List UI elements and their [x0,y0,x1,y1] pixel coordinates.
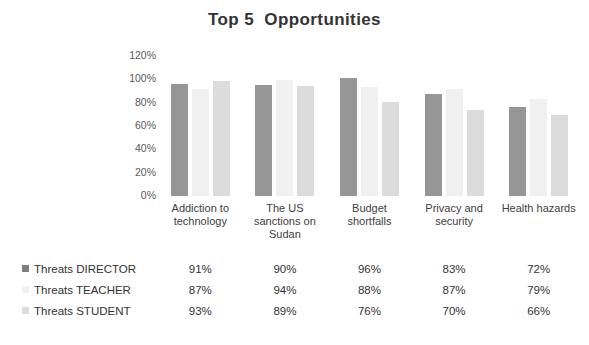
chart-title: Top 5 Opportunities [0,10,589,30]
table-cell: 79% [496,284,581,296]
legend-entry[interactable]: Threats STUDENT [0,305,158,317]
legend-label: Threats TEACHER [34,284,131,296]
category-label: The US sanctions on Sudan [243,202,328,241]
table-row: Threats DIRECTOR91%90%96%83%72% [0,258,589,279]
data-table-legend: Threats DIRECTOR91%90%96%83%72%Threats T… [0,258,589,321]
bar-group [496,48,581,196]
table-cell: 72% [496,263,581,275]
bar [297,86,314,196]
y-axis: 120% 100% 80% 60% 40% 20% 0% [104,48,156,200]
category-label: Addiction to technology [158,202,243,241]
table-cell: 94% [243,284,328,296]
bar [382,102,399,196]
y-tick-20: 20% [104,167,156,177]
y-tick-80: 80% [104,97,156,107]
table-cell: 70% [412,305,497,317]
plot-area [158,48,581,196]
bar-group [412,48,497,196]
table-cell: 96% [327,263,412,275]
bar [192,89,209,196]
table-value-cells: 91%90%96%83%72% [158,263,589,275]
bar [213,81,230,196]
plot-wrapper: 120% 100% 80% 60% 40% 20% 0% [0,48,589,200]
table-cell: 87% [158,284,243,296]
bar [361,87,378,196]
category-label: Privacy and security [412,202,497,241]
bar [171,84,188,196]
bar [467,110,484,196]
table-row: Threats STUDENT93%89%76%70%66% [0,300,589,321]
table-cell: 76% [327,305,412,317]
category-axis-labels: Addiction to technologyThe US sanctions … [158,202,581,241]
bar [551,115,568,196]
category-label: Budget shortfalls [327,202,412,241]
bar-groups [158,48,581,196]
bar [276,80,293,196]
legend-entry[interactable]: Threats TEACHER [0,284,158,296]
bar-group [243,48,328,196]
y-tick-0: 0% [104,190,156,200]
y-tick-40: 40% [104,143,156,153]
bar [340,78,357,196]
table-cell: 89% [243,305,328,317]
table-cell: 83% [412,263,497,275]
table-cell: 93% [158,305,243,317]
table-cell: 87% [412,284,497,296]
legend-label: Threats STUDENT [34,305,131,317]
bar [530,99,547,196]
y-tick-60: 60% [104,120,156,130]
y-tick-120: 120% [104,50,156,60]
table-cell: 66% [496,305,581,317]
legend-label: Threats DIRECTOR [34,263,136,275]
bar [255,85,272,196]
bar-group [327,48,412,196]
y-tick-100: 100% [104,73,156,83]
legend-entry[interactable]: Threats DIRECTOR [0,263,158,275]
bar [425,94,442,196]
table-value-cells: 93%89%76%70%66% [158,305,589,317]
table-value-cells: 87%94%88%87%79% [158,284,589,296]
bar [509,107,526,196]
table-cell: 91% [158,263,243,275]
legend-swatch-icon [22,265,29,272]
table-cell: 88% [327,284,412,296]
table-row: Threats TEACHER87%94%88%87%79% [0,279,589,300]
bar-group [158,48,243,196]
legend-swatch-icon [22,286,29,293]
bar [446,89,463,196]
legend-swatch-icon [22,307,29,314]
category-label: Health hazards [496,202,581,241]
table-cell: 90% [243,263,328,275]
